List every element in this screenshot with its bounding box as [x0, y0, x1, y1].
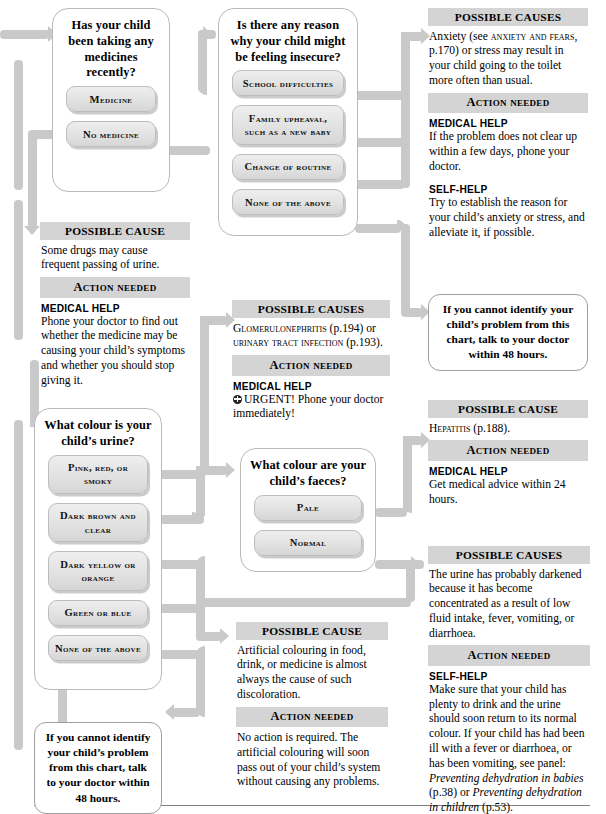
advice-label-medical-help-drugs: MEDICAL HELP — [41, 302, 189, 315]
advice-drugs: POSSIBLE CAUSE Some drugs may cause freq… — [40, 222, 190, 388]
option-pink-red-smoky[interactable]: Pink, red, or smoky — [48, 455, 148, 494]
advice-text-artificial-action: No action is required. The artificial co… — [237, 731, 387, 790]
advice-hepatitis-end: (p.188). — [470, 422, 510, 435]
term-anxiety-and-fears: anxiety and fears — [491, 30, 575, 43]
option-school-difficulties[interactable]: School difficulties — [232, 70, 344, 96]
panel-ref-end: (p.53). — [479, 801, 513, 814]
advice-text-glomerulonephritis: Glomerulonephritis (p.194) or urinary tr… — [233, 322, 389, 352]
connector-q2-bus — [401, 36, 410, 188]
arrowhead-artificial — [220, 628, 229, 644]
option-insecure-none-of-the-above[interactable]: None of the above — [232, 189, 344, 215]
connector-q2-opt1 — [355, 91, 405, 100]
advice-anxiety-pre: Anxiety (see — [429, 30, 491, 43]
connector-normal-out — [375, 560, 411, 569]
arrowhead-cannot-identify-left — [165, 704, 174, 720]
arrowhead-concentrated — [411, 556, 420, 572]
option-dark-brown-clear[interactable]: Dark brown and clear — [48, 503, 148, 542]
advice-text-drugs-cause: Some drugs may cause frequent passing of… — [41, 244, 189, 274]
connector-q2-none — [355, 224, 401, 233]
arrowhead-q2-entry — [203, 26, 212, 42]
connector-q3-opt3-down — [196, 560, 205, 602]
option-normal[interactable]: Normal — [254, 530, 362, 556]
advice-item-anxiety-medical: MEDICAL HELP If the problem does not cle… — [429, 117, 587, 174]
connector-q2-opt3 — [355, 180, 405, 189]
urgent-cross-icon — [233, 395, 242, 404]
question-panel-faeces-colour: What colour are your child’s faeces? Pal… — [240, 448, 376, 572]
option-pale[interactable]: Pale — [254, 495, 362, 521]
advice-body-artificial-action: No action is required. The artificial co… — [236, 727, 388, 790]
advice-body-hepatitis-cause: Hepatitis (p.188). — [428, 418, 588, 437]
arrowhead-medicine — [24, 226, 40, 235]
advice-heading-action-hepatitis: Action needed — [428, 440, 588, 461]
question-title-urine-colour: What colour is your child’s urine? — [35, 409, 161, 455]
advice-body-concentrated-cause: The urine has probably darkened because … — [428, 564, 590, 642]
advice-body-hepatitis-action: MEDICAL HELP Get medical advice within 2… — [428, 461, 588, 508]
advice-item-concentrated-self: SELF-HELP Make sure that your child has … — [429, 670, 589, 814]
connector-medicine-down — [28, 134, 37, 229]
advice-text-medical-help-hepatitis: Get medical advice within 24 hours. — [429, 478, 566, 506]
advice-glomerulonephritis: POSSIBLE CAUSES Glomerulonephritis (p.19… — [232, 300, 390, 422]
advice-text-urgent: URGENT! Phone your doctor immediately! — [233, 393, 383, 421]
advice-heading-action-anxiety: Action needed — [428, 93, 588, 114]
advice-heading-possible-causes-anxiety: POSSIBLE CAUSES — [428, 8, 588, 26]
connector-q3-opt3-right — [196, 598, 411, 607]
connector-elbow-q3-opt5 — [196, 646, 205, 655]
panel-ref-babies: Preventing dehydration in babies — [429, 772, 583, 785]
advice-anxiety: POSSIBLE CAUSES Anxiety (see anxiety and… — [428, 8, 588, 241]
connector-q2-opt2 — [355, 138, 405, 147]
advice-text-hepatitis: Hepatitis (p.188). — [429, 422, 587, 437]
connector-q3-opt4-right — [196, 632, 222, 641]
connector-elbow-q3-opt3b — [196, 556, 205, 565]
connector-q3-opt5-down — [196, 650, 205, 712]
advice-body-artificial-cause: Artificial colouring in food, drink, or … — [236, 640, 388, 703]
advice-item-anxiety-self: SELF-HELP Try to establish the reason fo… — [429, 183, 587, 240]
note-cannot-identify-left: If you cannot identify your child’s prob… — [34, 722, 162, 814]
question-title-faeces-colour: What colour are your child’s faeces? — [241, 449, 375, 495]
symptom-chart-page: { "colors": { "connector": "#c9c9c9", "h… — [0, 0, 606, 814]
advice-body-drugs-action: MEDICAL HELP Phone your doctor to find o… — [40, 298, 190, 389]
connector-main-bus-left — [14, 200, 23, 340]
option-no-medicine[interactable]: No medicine — [66, 121, 156, 147]
advice-text-artificial-cause: Artificial colouring in food, drink, or … — [237, 644, 387, 703]
advice-label-medical-help-anxiety: MEDICAL HELP — [429, 117, 587, 130]
connector-q2-none-right — [401, 308, 423, 317]
advice-label-self-help-concentrated: SELF-HELP — [429, 670, 589, 683]
advice-heading-possible-cause-drugs: POSSIBLE CAUSE — [40, 222, 190, 240]
question-title-medicines: Has your child been taking any medicines… — [53, 9, 169, 86]
connector-pale-out — [375, 508, 407, 517]
question-title-insecure: Is there any reason why your child might… — [219, 9, 357, 70]
connector-elbow-q2-none — [397, 220, 406, 229]
option-family-upheaval[interactable]: Family upheaval, such as a new baby — [232, 105, 344, 144]
advice-text-concentrated-cause: The urine has probably darkened because … — [429, 568, 589, 642]
question-panel-urine-colour: What colour is your child’s urine? Pink,… — [34, 408, 162, 690]
connector-main-bus-left3 — [14, 60, 23, 190]
option-medicine[interactable]: Medicine — [66, 86, 156, 112]
advice-text-anxiety-cause: Anxiety (see anxiety and fears, p.170) o… — [429, 30, 587, 89]
option-dark-yellow-orange[interactable]: Dark yellow or orange — [48, 551, 148, 590]
advice-heading-possible-causes-concentrated: POSSIBLE CAUSES — [428, 546, 590, 564]
advice-glomerulonephritis-end: (p.193). — [343, 336, 383, 349]
connector-q3-opt2-up — [196, 470, 205, 518]
advice-body-glomerulonephritis-cause: Glomerulonephritis (p.194) or urinary tr… — [232, 318, 390, 352]
advice-glomerulonephritis-mid: (p.194) or — [327, 322, 376, 335]
advice-artificial-colouring: POSSIBLE CAUSE Artificial colouring in f… — [236, 622, 388, 790]
option-change-of-routine[interactable]: Change of routine — [232, 154, 344, 180]
advice-item-glomerulonephritis-medical: MEDICAL HELP URGENT! Phone your doctor i… — [233, 380, 389, 423]
advice-body-drugs-cause: Some drugs may cause frequent passing of… — [40, 240, 190, 274]
option-urine-none-of-the-above[interactable]: None of the above — [48, 635, 148, 661]
option-green-or-blue[interactable]: Green or blue — [48, 600, 148, 626]
connector-entry-q1 — [0, 30, 48, 39]
advice-item-hepatitis-medical: MEDICAL HELP Get medical advice within 2… — [429, 465, 587, 508]
connector-q2-none-down — [401, 224, 410, 312]
connector-q3-opt5-left — [172, 708, 200, 717]
advice-heading-action-concentrated: Action needed — [428, 645, 590, 666]
arrowhead-faeces — [226, 462, 235, 478]
advice-heading-possible-cause-hepatitis: POSSIBLE CAUSE — [428, 400, 588, 418]
advice-body-anxiety-cause: Anxiety (see anxiety and fears, p.170) o… — [428, 26, 588, 89]
advice-body-glomerulonephritis-action: MEDICAL HELP URGENT! Phone your doctor i… — [232, 376, 390, 423]
note-cannot-identify-right: If you cannot identify your child’s prob… — [428, 294, 588, 371]
question-panel-medicines: Has your child been taking any medicines… — [52, 8, 170, 192]
connector-main-bus-left2 — [14, 420, 23, 750]
connector-q3-opt1-right — [200, 316, 228, 325]
advice-label-medical-help-glomerulonephritis: MEDICAL HELP — [233, 380, 389, 393]
